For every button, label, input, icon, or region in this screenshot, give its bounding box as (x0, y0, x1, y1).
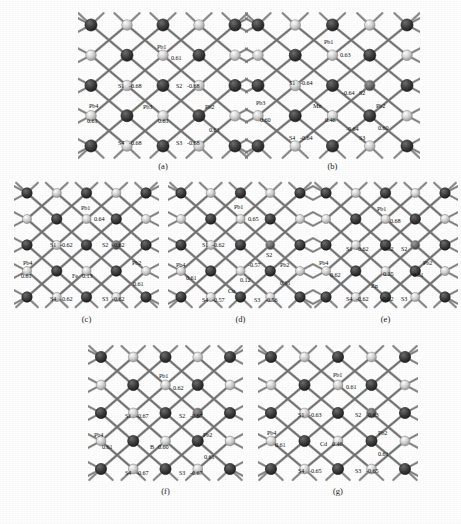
panel-c-lattice (14, 176, 159, 328)
charge-label-s1-d: -0.62 (212, 242, 224, 248)
charge-label-s3-b: -0.64 (346, 126, 358, 132)
atom-label-s3-d: S3 (254, 297, 260, 303)
atom-label-pb1-b: Pb1 (324, 39, 333, 45)
panel-caption-g: (g) (258, 486, 418, 496)
panel-c: Pb1 0.64 S1 -0.62 S2 -0.62 Pb4 0.61 Fe 0… (14, 176, 159, 328)
atom-label-pb1-g: Pb1 (333, 372, 342, 378)
atom-label-pb2-e: Pb2 (423, 260, 432, 266)
atom-label-s1-d: S1 (202, 242, 208, 248)
atom-label-pb2-c: Pb2 (132, 260, 141, 266)
charge-label-pb1-c: 0.64 (94, 216, 104, 222)
atom-label-pb4-e: Pb4 (319, 260, 328, 266)
charge-label-pb3-a: 0.61 (158, 118, 168, 124)
panel-b-lattice (245, 8, 420, 176)
charge-label-cu-d: 0.12 (240, 277, 250, 283)
panel-f-lattice (88, 340, 243, 500)
charge-label-s1-c: -0.62 (60, 242, 72, 248)
panel-caption-a: (a) (78, 161, 248, 171)
panel-d-lattice (168, 176, 313, 328)
atom-label-pb1-f: Pb1 (159, 373, 168, 379)
charge-label-cd-g: 0.46 (332, 441, 342, 447)
charge-label-s3-a: -0.68 (187, 140, 199, 146)
panel-d: Pb1 0.65 S1 -0.62 S2 -0.57 Pb4 0.61 Cu 0… (168, 176, 313, 328)
panel-caption-e: (e) (313, 314, 458, 324)
charge-label-s2-c: -0.62 (112, 242, 124, 248)
charge-label-s1-g: -0.63 (309, 412, 321, 418)
charge-label-s2-f: -0.67 (190, 413, 202, 419)
atom-label-s3-a: S3 (176, 140, 182, 146)
charge-label-pb4-c: 0.61 (21, 273, 31, 279)
charge-label-s3-d: -0.56 (265, 297, 277, 303)
charge-label-pb2-g: 0.61 (378, 451, 388, 457)
atom-label-s2-d: S2 (266, 252, 272, 258)
atom-label-s2-f: S2 (179, 413, 185, 419)
panel-g: Pb1 0.61 S1 -0.63 S2 -0.63 Pb4 0.61 Cd 0… (258, 340, 418, 500)
panel-f: Pb1 0.62 S1 -0.67 S2 -0.67 Pb4 0.61 B 0.… (88, 340, 243, 500)
charge-label-pb2-a: 0.61 (209, 127, 219, 133)
atom-label-s4-c: S4 (50, 296, 56, 302)
panel-a-lattice (78, 8, 248, 176)
charge-label-s3-g: -0.65 (366, 468, 378, 474)
panel-caption-d: (d) (168, 314, 313, 324)
lattice-svg-f (88, 340, 243, 486)
crystal-structure-figure: Pb1 0.61 S1 -0.68 S2 -0.68 Pb4 0.61 Pb3 … (0, 0, 461, 524)
atom-label-s1-b: S1 (289, 80, 295, 86)
charge-label-s2-a: -0.68 (187, 83, 199, 89)
atom-label-s2-b: S2 (359, 90, 365, 96)
charge-label-pb1-e: 0.68 (390, 218, 400, 224)
charge-label-s1-b: -0.64 (300, 80, 312, 86)
charge-label-s3-f: -0.67 (190, 470, 202, 476)
atom-label-zn-e: Zn (371, 283, 378, 289)
charge-label-s4-f: -0.67 (136, 470, 148, 476)
atom-label-s2-e: S2 (401, 246, 407, 252)
charge-label-s2-b: -0.64 (342, 90, 354, 96)
charge-label-pb3-b: 0.60 (260, 117, 270, 123)
panel-a: Pb1 0.61 S1 -0.68 S2 -0.68 Pb4 0.61 Pb3 … (78, 8, 248, 176)
charge-label-s4-c: -0.62 (60, 296, 72, 302)
atom-label-b-f: B (150, 444, 154, 450)
charge-label-s4-g: -0.65 (309, 468, 321, 474)
atom-label-pb1-a: Pb1 (157, 44, 166, 50)
charge-label-pb4-g: 0.61 (275, 442, 285, 448)
panel-b: Pb1 0.63 S1 -0.64 S2 -0.64 Pb3 0.60 Mn 0… (245, 8, 420, 176)
charge-label-s3-c: -0.62 (112, 296, 124, 302)
charge-label-zn-e: 0.25 (383, 271, 393, 277)
charge-label-pb1-f: 0.62 (173, 385, 183, 391)
charge-label-mn-b: 0.46 (325, 117, 335, 123)
panel-caption-c: (c) (14, 314, 159, 324)
charge-label-pb4-d: 0.61 (186, 275, 196, 281)
charge-label-s2-d: -0.57 (248, 262, 260, 268)
atom-label-s1-a: S1 (118, 83, 124, 89)
lattice-svg-d (168, 176, 313, 314)
atom-label-s4-e: S4 (346, 296, 352, 302)
atom-label-pb1-d: Pb1 (234, 204, 243, 210)
atom-label-s3-b: S3 (359, 135, 365, 141)
charge-label-s4-d: -0.57 (212, 297, 224, 303)
panel-e: Pb1 0.68 S1 -0.62 S2 -0.62 Pb4 0.62 Zn 0… (313, 176, 458, 328)
atom-label-pb1-e: Pb1 (377, 206, 386, 212)
charge-label-pb1-a: 0.61 (171, 55, 181, 61)
atom-label-s1-e: S1 (346, 246, 352, 252)
atom-label-s1-f: S1 (125, 413, 131, 419)
atom-label-pb3-b: Pb3 (256, 100, 265, 106)
charge-label-pb4-a: 0.61 (87, 118, 97, 124)
atom-label-mn-b: Mn (313, 103, 321, 109)
charge-label-pb4-f: 0.61 (102, 444, 112, 450)
atom-label-s4-b: S4 (289, 135, 295, 141)
atom-label-pb2-b: Pb2 (376, 103, 385, 109)
atom-label-s2-g: S2 (355, 412, 361, 418)
charge-label-s1-a: -0.68 (129, 83, 141, 89)
atom-label-pb4-f: Pb4 (94, 432, 103, 438)
atom-label-pb4-a: Pb4 (89, 103, 98, 109)
atom-label-s4-a: S4 (118, 140, 124, 146)
charge-label-s2-g: -0.63 (366, 412, 378, 418)
charge-label-pb4-e: 0.62 (330, 272, 340, 278)
atom-label-fe-c: Fe (72, 273, 78, 279)
charge-label-pb1-g: 0.61 (346, 384, 356, 390)
atom-label-pb3-a: Pb3 (143, 104, 152, 110)
charge-label-s2-e: -0.62 (381, 246, 393, 252)
atom-label-pb4-g: Pb4 (267, 430, 276, 436)
charge-label-pb2-b: 0.60 (378, 125, 388, 131)
lattice-svg-b (245, 8, 420, 163)
atom-label-s1-g: S1 (298, 412, 304, 418)
